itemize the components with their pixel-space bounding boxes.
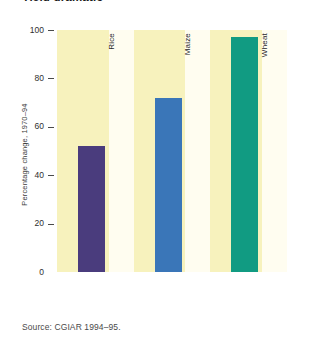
page-title: Yield dramatic [22,0,103,3]
y-tick-label: 20 [18,219,44,228]
y-tick-mark [48,175,54,176]
bar-rice [78,146,105,272]
y-axis-title: Percentage change, 1970–94 [20,70,29,240]
source-note: Source: CGIAR 1994–95. [22,322,121,332]
y-tick-label: 40 [18,171,44,180]
series-label-maize: Maize [183,33,192,55]
series-label-rice: Rice [107,33,116,50]
y-tick-mark [48,30,54,31]
y-tick-mark [48,78,54,79]
plot-area: RiceMaizeWheat [57,30,287,272]
y-tick-mark [48,127,54,128]
y-tick-label: 80 [18,74,44,83]
y-tick-label: 100 [18,26,44,35]
y-tick-label: 60 [18,122,44,131]
series-label-wheat: Wheat [260,33,269,57]
bar-wheat [231,37,258,272]
y-tick-label: 0 [18,268,44,277]
y-tick-mark [48,224,54,225]
bar-maize [155,98,182,272]
